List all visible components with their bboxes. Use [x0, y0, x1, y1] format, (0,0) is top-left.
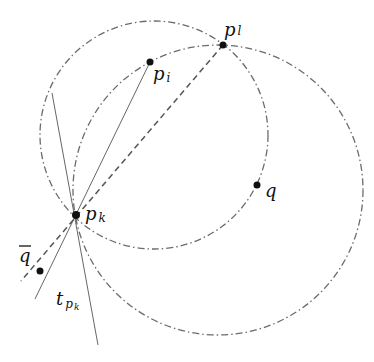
geometry-diagram: pi pl pk q q tpk — [0, 0, 374, 362]
line-pl-pk-qbar — [21, 45, 223, 281]
point-p-l — [220, 42, 227, 49]
label-p-k: pk — [85, 203, 106, 225]
large-circle — [73, 45, 363, 335]
point-p-k — [72, 211, 80, 219]
label-t-pk: tpk — [56, 288, 79, 312]
point-q — [254, 182, 261, 189]
label-q: q — [265, 180, 277, 201]
label-p-l: pl — [224, 19, 242, 40]
point-q-bar — [37, 268, 44, 275]
label-p-i: pi — [153, 63, 171, 85]
label-q-bar: q — [19, 245, 31, 266]
